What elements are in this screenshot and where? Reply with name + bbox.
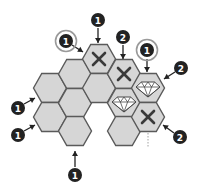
arrow-icon bbox=[163, 125, 174, 133]
arrow-icon bbox=[72, 151, 78, 167]
clue-badge: 2 bbox=[164, 61, 188, 79]
clue-badge: 2 bbox=[163, 125, 187, 144]
arrow-icon bbox=[24, 98, 35, 104]
clue-number: 1 bbox=[15, 131, 21, 141]
clue-badge: 1 bbox=[91, 13, 105, 43]
arrow-icon bbox=[95, 28, 101, 43]
clue-number: 2 bbox=[120, 33, 126, 43]
clue-number: 1 bbox=[15, 104, 21, 114]
clue-number: 2 bbox=[177, 133, 183, 143]
circled-clue-badge: 1 bbox=[137, 40, 158, 73]
clue-badge: 1 bbox=[68, 151, 82, 182]
clue-badge: 1 bbox=[11, 125, 35, 142]
clue-number: 1 bbox=[144, 46, 150, 56]
clue-number: 1 bbox=[63, 37, 69, 47]
clue-number: 1 bbox=[72, 171, 78, 181]
clue-badge: 2 bbox=[116, 30, 130, 59]
arrow-icon bbox=[120, 45, 126, 59]
arrow-icon bbox=[24, 125, 35, 131]
arrow-icon bbox=[164, 72, 175, 79]
clue-badge: 1 bbox=[11, 98, 35, 115]
circled-clue-badge: 1 bbox=[56, 31, 84, 53]
hex-puzzle-board: 112121112 bbox=[0, 0, 200, 191]
clue-number: 2 bbox=[178, 64, 184, 74]
clue-number: 1 bbox=[95, 16, 101, 26]
